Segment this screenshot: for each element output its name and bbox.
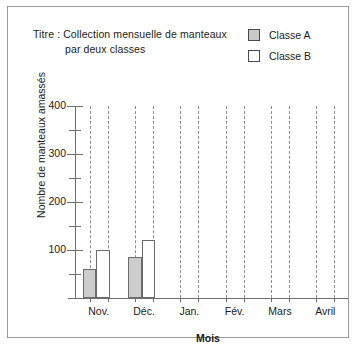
y-axis-tick-label: 100 <box>32 243 66 255</box>
y-axis-tick-label: 200 <box>32 195 66 207</box>
bar-nov-classe-b <box>96 250 110 298</box>
x-axis-tick <box>289 298 290 302</box>
chart-title-line-1: Titre : Collection mensuelle de manteaux <box>33 28 227 40</box>
grid-line <box>316 106 317 298</box>
grid-line <box>226 106 227 298</box>
x-axis-tick <box>226 298 227 302</box>
x-axis-tick <box>198 298 199 302</box>
bar-nov-classe-a <box>83 269 97 298</box>
x-axis-label-5: Avril <box>297 305 353 317</box>
grid-line <box>289 106 290 298</box>
x-axis-tick <box>316 298 317 302</box>
y-axis-tick-label: 300 <box>32 147 66 159</box>
x-axis-line <box>68 298 348 299</box>
bar-déc-classe-b <box>142 240 156 298</box>
x-axis-tick <box>153 298 154 302</box>
legend-swatch-icon-classe-b <box>248 50 260 62</box>
x-axis-tick <box>108 298 109 302</box>
plot-area <box>76 106 348 298</box>
legend-item-classe-a: Classe A <box>248 26 348 44</box>
grid-line <box>271 106 272 298</box>
x-axis-title: Mois <box>68 332 348 344</box>
legend-label-classe-a: Classe A <box>269 29 310 41</box>
bar-déc-classe-a <box>128 257 142 298</box>
grid-line <box>334 106 335 298</box>
y-axis-tick <box>69 298 81 299</box>
chart-title: Titre : Collection mensuelle de manteaux… <box>33 27 243 57</box>
x-axis-tick <box>90 298 91 302</box>
x-axis-tick <box>271 298 272 302</box>
grid-line <box>244 106 245 298</box>
x-axis-tick <box>180 298 181 302</box>
y-axis-tick-label: 400 <box>32 99 66 111</box>
x-axis-tick <box>135 298 136 302</box>
x-axis-tick <box>244 298 245 302</box>
legend-label-classe-b: Classe B <box>269 50 311 62</box>
legend-swatch-icon-classe-a <box>248 29 260 41</box>
chart-screenshot: Titre : Collection mensuelle de manteaux… <box>0 0 357 346</box>
grid-line <box>180 106 181 298</box>
chart-title-line-2: par deux classes <box>33 42 243 57</box>
legend-item-classe-b: Classe B <box>248 47 348 65</box>
y-axis-title: Nombre de manteaux amassés <box>35 50 47 240</box>
chart-legend: Classe A Classe B <box>248 26 348 68</box>
grid-line <box>198 106 199 298</box>
chart-frame: Titre : Collection mensuelle de manteaux… <box>7 6 349 338</box>
x-axis-tick <box>334 298 335 302</box>
